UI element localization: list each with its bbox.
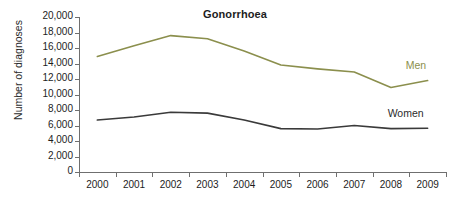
- y-axis-title: Number of diagnoses: [12, 0, 24, 150]
- series-line-men: [97, 36, 427, 88]
- x-axis-tick-label: 2004: [233, 179, 255, 190]
- chart-figure: Gonorrhoea Number of diagnoses 02,0004,0…: [0, 0, 452, 206]
- x-axis-tick-label: 2005: [270, 179, 292, 190]
- y-axis-tick-mark: [75, 95, 79, 96]
- y-axis-tick-label: 8,000: [48, 103, 73, 114]
- x-axis-tick-label: 2006: [306, 179, 328, 190]
- x-axis-tick-label: 2009: [417, 179, 439, 190]
- y-axis-tick-mark: [75, 110, 79, 111]
- x-axis-tick-mark: [299, 172, 300, 177]
- y-axis-tick-label: 14,000: [42, 57, 73, 68]
- y-axis-tick-mark: [75, 48, 79, 49]
- y-axis-tick-label: 20,000: [42, 10, 73, 21]
- series-lines: [79, 17, 446, 172]
- plot-area: 02,0004,0006,0008,00010,00012,00014,0001…: [79, 17, 446, 172]
- y-axis-tick-label: 10,000: [42, 88, 73, 99]
- y-axis-tick-mark: [75, 64, 79, 65]
- y-axis-tick-label: 2,000: [48, 150, 73, 161]
- x-axis-tick-mark: [226, 172, 227, 177]
- x-axis-tick-label: 2000: [86, 179, 108, 190]
- series-label-women: Women: [388, 107, 424, 119]
- x-axis-tick-mark: [446, 172, 447, 177]
- x-axis-tick-label: 2001: [123, 179, 145, 190]
- y-axis-tick-mark: [75, 126, 79, 127]
- x-axis-tick-mark: [263, 172, 264, 177]
- series-label-men: Men: [406, 59, 426, 71]
- series-line-women: [97, 112, 427, 129]
- x-axis-tick-label: 2003: [196, 179, 218, 190]
- y-axis-tick-label: 4,000: [48, 134, 73, 145]
- y-axis-tick-label: 18,000: [42, 26, 73, 37]
- y-axis-tick-label: 6,000: [48, 119, 73, 130]
- y-axis-tick-mark: [75, 141, 79, 142]
- x-axis-tick-mark: [189, 172, 190, 177]
- x-axis-tick-label: 2008: [380, 179, 402, 190]
- y-axis-tick-mark: [75, 79, 79, 80]
- y-axis-tick-label: 16,000: [42, 41, 73, 52]
- y-axis-tick-mark: [75, 157, 79, 158]
- x-axis-tick-mark: [79, 172, 80, 177]
- x-axis-tick-mark: [152, 172, 153, 177]
- x-axis-tick-mark: [116, 172, 117, 177]
- y-axis-tick-mark: [75, 17, 79, 18]
- x-axis-tick-mark: [373, 172, 374, 177]
- x-axis-tick-label: 2007: [343, 179, 365, 190]
- x-axis-tick-label: 2002: [160, 179, 182, 190]
- y-axis-tick-mark: [75, 33, 79, 34]
- y-axis-tick-label: 0: [67, 165, 73, 176]
- x-axis-tick-mark: [336, 172, 337, 177]
- y-axis-tick-label: 12,000: [42, 72, 73, 83]
- x-axis-tick-mark: [409, 172, 410, 177]
